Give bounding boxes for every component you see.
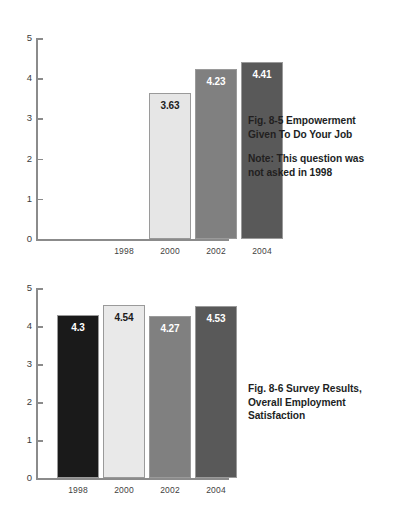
y-axis-tick	[38, 159, 43, 161]
bar-2004: 4.53	[195, 306, 237, 478]
bar-2002: 4.27	[149, 316, 191, 478]
y-axis-tick-label: 3	[16, 113, 32, 123]
caption-title-line-2: Given To Do Your Job	[248, 128, 408, 142]
bar-value-label-2000: 3.63	[150, 100, 190, 111]
x-axis-category-label-2000: 2000	[149, 246, 191, 256]
bar-value-label-2002: 4.23	[196, 76, 236, 87]
bar-value-label-1998: 4.3	[58, 322, 98, 333]
y-axis-tick-label: 5	[16, 283, 32, 293]
y-axis-tick	[38, 38, 43, 40]
figure-fig-8-6: 0123454.319984.5420004.2720024.532004 Fi…	[0, 262, 412, 511]
y-axis-tick	[38, 239, 43, 241]
bar-value-label-2000: 4.54	[104, 312, 144, 323]
y-axis-tick-label: 4	[16, 321, 32, 331]
bar-value-label-2002: 4.27	[150, 323, 190, 334]
y-axis-tick	[38, 326, 43, 328]
x-axis-category-label-1998: 1998	[103, 246, 145, 256]
bar-value-label-2004: 4.41	[242, 69, 282, 80]
y-axis-tick	[38, 364, 43, 366]
y-axis-tick-label: 4	[16, 73, 32, 83]
x-axis-line	[36, 239, 229, 241]
y-axis-tick	[38, 199, 43, 201]
y-axis-tick-label: 0	[16, 473, 32, 483]
y-axis-tick-label: 1	[16, 194, 32, 204]
x-axis-category-label-2004: 2004	[195, 485, 237, 495]
y-axis-tick	[38, 78, 43, 80]
y-axis-tick	[38, 288, 43, 290]
y-axis-tick-label: 5	[16, 33, 32, 43]
y-axis-tick-label: 1	[16, 435, 32, 445]
x-axis-category-label-2002: 2002	[195, 246, 237, 256]
y-axis-line	[36, 288, 38, 479]
caption-title-block: Fig. 8-5 Empowerment Given To Do Your Jo…	[248, 114, 408, 141]
y-axis-tick-label: 2	[16, 154, 32, 164]
caption-title-line-1: Fig. 8-5 Empowerment	[248, 114, 408, 128]
bar-2000: 3.63	[149, 93, 191, 239]
x-axis-category-label-1998: 1998	[57, 485, 99, 495]
bar-2000: 4.54	[103, 305, 145, 478]
x-axis-category-label-2002: 2002	[149, 485, 191, 495]
caption-title-line-2: Overall Employment	[248, 396, 408, 410]
x-axis-line	[36, 478, 229, 480]
y-axis-tick	[38, 478, 43, 480]
y-axis-line	[36, 38, 38, 240]
x-axis-category-label-2000: 2000	[103, 485, 145, 495]
bar-value-label-2004: 4.53	[196, 313, 236, 324]
y-axis-tick-label: 0	[16, 234, 32, 244]
y-axis-tick	[38, 118, 43, 120]
caption-note-line-1: Note: This question was	[248, 152, 408, 166]
bar-2002: 4.23	[195, 69, 237, 239]
figure-fig-8-5: 01234519983.6320004.2320024.412004 Fig. …	[0, 0, 412, 262]
x-axis-category-label-2004: 2004	[241, 246, 283, 256]
figure-caption-8-5: Fig. 8-5 Empowerment Given To Do Your Jo…	[248, 114, 408, 179]
caption-title-block: Fig. 8-6 Survey Results, Overall Employm…	[248, 382, 408, 423]
y-axis-tick	[38, 402, 43, 404]
caption-note-block: Note: This question was not asked in 199…	[248, 152, 408, 179]
caption-title-line-1: Fig. 8-6 Survey Results,	[248, 382, 408, 396]
caption-title-line-3: Satisfaction	[248, 409, 408, 423]
y-axis-tick-label: 2	[16, 397, 32, 407]
figure-caption-8-6: Fig. 8-6 Survey Results, Overall Employm…	[248, 382, 408, 423]
bar-1998: 4.3	[57, 315, 99, 478]
caption-note-line-2: not asked in 1998	[248, 166, 408, 180]
y-axis-tick	[38, 440, 43, 442]
y-axis-tick-label: 3	[16, 359, 32, 369]
